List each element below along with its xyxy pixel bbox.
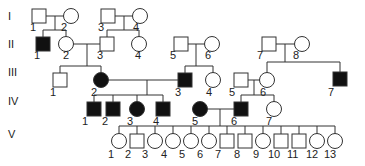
generation-labels: IIIIIIIVV [8, 10, 19, 140]
unaffected-male-symbol [262, 37, 276, 51]
unaffected-female-symbol [310, 134, 325, 149]
individual-number: 1 [82, 115, 88, 127]
individual-number: 2 [61, 21, 67, 33]
generation-label: II [8, 38, 14, 50]
pedigree-chart: IIIIIIIVV 123412345678123456712345671234… [0, 0, 365, 166]
individual-number: 7 [215, 148, 221, 160]
individual-number: 4 [161, 148, 167, 160]
individual-number: 10 [268, 148, 280, 160]
individual-number: 7 [266, 115, 272, 127]
unaffected-male-symbol [220, 134, 234, 148]
unaffected-male-symbol [53, 73, 67, 87]
individual-number: 3 [142, 148, 148, 160]
individuals [32, 9, 347, 149]
unaffected-female-symbol [328, 134, 343, 149]
individual-number: 1 [108, 148, 114, 160]
individual-number: 6 [197, 148, 203, 160]
generation-label: I [8, 10, 11, 22]
unaffected-female-symbol [112, 134, 127, 149]
affected-male-symbol [87, 102, 101, 116]
individual-number: 4 [206, 86, 212, 98]
individual-number: 5 [192, 115, 198, 127]
individual-number: 2 [125, 148, 131, 160]
individual-number: 4 [135, 49, 141, 61]
unaffected-male-symbol [292, 134, 306, 148]
individual-number: 13 [324, 148, 336, 160]
individual-number: 6 [260, 86, 266, 98]
individual-number: 3 [97, 49, 103, 61]
individual-number: 3 [127, 115, 133, 127]
individual-number: 1 [30, 21, 36, 33]
individual-number: 1 [34, 49, 40, 61]
individual-number: 5 [229, 86, 235, 98]
individual-number: 2 [102, 115, 108, 127]
generation-label: IV [8, 95, 19, 107]
individual-number: 3 [175, 86, 181, 98]
individual-number: 12 [306, 148, 318, 160]
individual-number: 7 [328, 86, 334, 98]
affected-male-symbol [156, 102, 170, 116]
unaffected-female-symbol [202, 134, 217, 149]
individual-number: 1 [50, 86, 56, 98]
individual-number: 4 [133, 21, 139, 33]
generation-label: V [8, 128, 16, 140]
individual-number: 9 [253, 148, 259, 160]
affected-male-symbol [178, 73, 192, 87]
affected-male-symbol [333, 72, 347, 86]
unaffected-female-symbol [166, 134, 181, 149]
individual-number: 5 [170, 49, 176, 61]
unaffected-female-symbol [256, 134, 271, 149]
individual-number: 2 [91, 86, 97, 98]
unaffected-male-symbol [234, 73, 248, 87]
individual-number: 7 [257, 49, 263, 61]
affected-male-symbol [106, 102, 120, 116]
affected-male-symbol [234, 102, 248, 116]
individual-number: 11 [287, 148, 298, 160]
individual-number: 3 [98, 21, 104, 33]
unaffected-male-symbol [274, 134, 288, 148]
unaffected-female-symbol [148, 134, 163, 149]
generation-label: III [8, 66, 17, 78]
unaffected-male-symbol [130, 134, 144, 148]
individual-number: 6 [205, 49, 211, 61]
unaffected-female-symbol [184, 134, 199, 149]
individual-number: 8 [234, 148, 240, 160]
individual-number: 6 [231, 115, 237, 127]
individual-number: 5 [179, 148, 185, 160]
individual-number: 4 [153, 115, 159, 127]
individual-number: 8 [293, 49, 299, 61]
unaffected-male-symbol [238, 134, 252, 148]
individual-number: 2 [63, 49, 69, 61]
